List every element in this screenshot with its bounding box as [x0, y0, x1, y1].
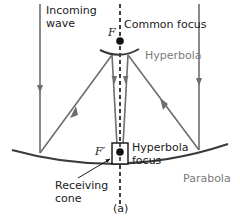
label-common-focus: Common focus: [124, 18, 207, 31]
label-incoming-wave-1: Incoming: [46, 4, 97, 17]
hyperbola-focus-dot: [116, 148, 124, 156]
label-receiving-cone-1: Receiving: [55, 179, 108, 192]
label-incoming-wave-2: wave: [46, 17, 75, 30]
reflected-ray-right: [128, 55, 199, 150]
common-focus-dot: [116, 37, 124, 45]
label-receiving-cone-2: cone: [55, 192, 82, 205]
label-focus-f-prime: F′: [94, 145, 106, 158]
label-parabola: Parabola: [183, 172, 231, 185]
figure-caption: (a): [113, 202, 128, 215]
label-hyperbola-focus-1: Hyperbola: [132, 141, 189, 154]
label-hyperbola-focus-2: focus: [132, 154, 162, 167]
secondary-ray-right: [123, 55, 129, 145]
label-focus-f: F: [107, 26, 116, 39]
label-hyperbola: Hyperbola: [145, 49, 202, 62]
cassegrain-antenna-diagram: Incoming wave F Common focus Hyperbola F…: [0, 0, 240, 216]
reflected-ray-left: [40, 55, 112, 153]
secondary-ray-left: [112, 55, 118, 145]
incoming-ray-left: [37, 4, 43, 153]
